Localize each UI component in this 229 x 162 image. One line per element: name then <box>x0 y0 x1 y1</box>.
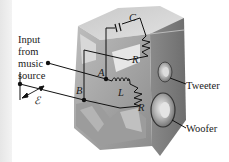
emf-label: ℰ <box>34 95 40 107</box>
tweeter-speaker-icon <box>158 62 172 82</box>
node-b-dot <box>82 98 86 102</box>
emf-arrow-icon <box>22 86 44 98</box>
woofer-label: Woofer <box>186 123 217 135</box>
tweeter-label: Tweeter <box>186 80 220 92</box>
capacitor-label: C <box>129 12 136 24</box>
input-label-line4: source <box>18 70 45 82</box>
input-label-line3: music <box>18 58 43 70</box>
node-a-dot <box>104 77 108 81</box>
node-a-label: A <box>98 67 104 79</box>
inductor-label: L <box>118 87 124 99</box>
node-b-label: B <box>76 85 82 97</box>
input-label-line2: from <box>18 46 38 58</box>
input-terminal-top <box>46 61 50 65</box>
resistor-top-label: R <box>132 54 138 66</box>
input-terminal-bottom <box>18 82 22 86</box>
input-label-line1: Input <box>18 34 40 46</box>
resistor-bottom-label: R <box>138 102 144 114</box>
woofer-speaker-icon <box>151 93 175 127</box>
